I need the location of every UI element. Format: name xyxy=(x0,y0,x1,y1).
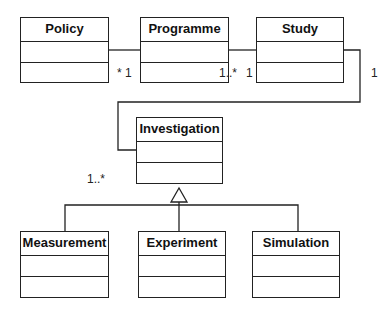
attributes-compartment xyxy=(257,42,343,63)
attributes-compartment xyxy=(253,256,339,277)
attributes-compartment xyxy=(137,142,222,163)
class-name: Simulation xyxy=(253,232,339,256)
class-programme[interactable]: Programme xyxy=(140,17,229,83)
multiplicity-investigation-side: 1..* xyxy=(87,172,105,186)
class-simulation[interactable]: Simulation xyxy=(252,231,340,298)
class-measurement[interactable]: Measurement xyxy=(20,231,109,298)
operations-compartment xyxy=(137,163,222,181)
class-name: Investigation xyxy=(137,118,222,142)
class-name: Measurement xyxy=(21,232,108,256)
attributes-compartment xyxy=(139,256,225,277)
operations-compartment xyxy=(139,277,225,295)
class-name: Experiment xyxy=(139,232,225,256)
generalization-bus xyxy=(65,205,298,231)
uml-class-diagram: Policy Programme Study Investigation Mea… xyxy=(0,0,389,315)
multiplicity-programme-side: 1..* xyxy=(219,66,237,80)
operations-compartment xyxy=(21,277,108,295)
attributes-compartment xyxy=(21,42,108,63)
class-experiment[interactable]: Experiment xyxy=(138,231,226,298)
class-name: Policy xyxy=(21,18,108,42)
class-policy[interactable]: Policy xyxy=(20,17,109,83)
operations-compartment xyxy=(257,63,343,81)
operations-compartment xyxy=(141,63,228,81)
multiplicity-study-right: 1 xyxy=(371,66,378,80)
class-name: Programme xyxy=(141,18,228,42)
operations-compartment xyxy=(21,63,108,81)
class-study[interactable]: Study xyxy=(256,17,344,83)
class-name: Study xyxy=(257,18,343,42)
generalization-arrowhead-icon xyxy=(171,188,187,202)
multiplicity-study-side: 1 xyxy=(246,66,253,80)
class-investigation[interactable]: Investigation xyxy=(136,117,223,184)
attributes-compartment xyxy=(141,42,228,63)
operations-compartment xyxy=(253,277,339,295)
attributes-compartment xyxy=(21,256,108,277)
multiplicity-policy-programme: * 1 xyxy=(117,66,132,80)
